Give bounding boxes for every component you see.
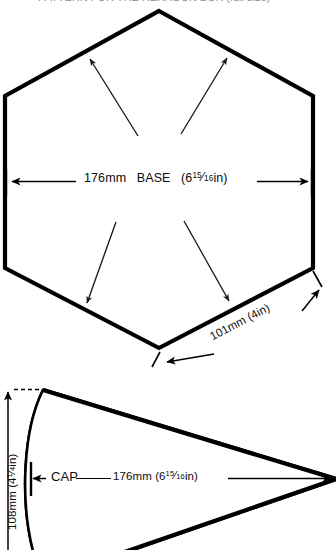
height-label-rotator: 108mm (41⁄4in): [2, 454, 20, 530]
cap-figure-name: CAP: [51, 470, 78, 483]
base-width-inches: (615⁄16in): [181, 171, 228, 185]
cap-height-inches: (41⁄4in): [6, 454, 18, 488]
cap-height-mm: 108mm: [6, 491, 18, 530]
cap-width-label: 176mm (615⁄16in): [113, 471, 198, 483]
cap-height-label: 108mm (41⁄4in): [6, 454, 18, 530]
base-figure-name: BASE: [137, 171, 171, 185]
pattern-line-art: [0, 0, 336, 550]
cap-width-inches: (615⁄16in): [155, 470, 198, 482]
base-width-mm: 176mm: [84, 171, 126, 185]
base-dimension-label: 176mm BASE (615⁄16in): [84, 172, 228, 185]
cap-width-mm: 176mm: [113, 470, 152, 482]
drawing-sheet: PATTERN FOR THE HEXAGON BOX (full size): [0, 0, 336, 550]
